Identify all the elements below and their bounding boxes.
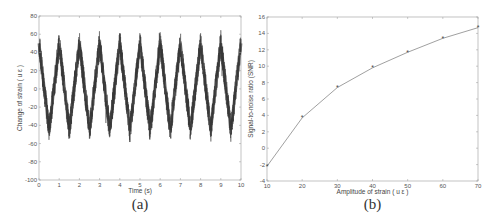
data-point-marker: * <box>477 24 480 31</box>
y-tick-label: 60 <box>30 31 37 37</box>
x-tick-label: 10 <box>238 182 245 188</box>
data-point-marker: * <box>301 114 304 121</box>
x-axis-label: Amplitude of strain ( u ε ) <box>337 188 409 196</box>
y-tick-label: -60 <box>28 141 37 147</box>
x-tick-label: 9 <box>219 182 223 188</box>
x-axis-label: Time (s) <box>128 187 152 195</box>
x-tick-label: 7 <box>179 182 183 188</box>
data-point-marker: * <box>266 163 269 170</box>
y-axis-label: Change of strain ( u ε ) <box>16 65 24 131</box>
y-tick-label: -80 <box>28 159 37 165</box>
y-tick-label: 20 <box>30 68 37 74</box>
x-tick-label: 0 <box>37 182 41 188</box>
figure-canvas: 012345678910-100-80-60-40-20020406080Tim… <box>0 0 499 222</box>
data-point-marker: * <box>441 35 444 42</box>
data-point-marker: * <box>406 49 409 56</box>
x-tick-label: 2 <box>78 182 82 188</box>
y-tick-label: 10 <box>258 63 265 69</box>
y-tick-label: 16 <box>258 14 265 20</box>
y-tick-label: -100 <box>25 177 38 183</box>
x-tick-label: 8 <box>199 182 203 188</box>
x-tick-label: 20 <box>299 183 306 189</box>
y-tick-label: 0 <box>262 145 266 151</box>
x-tick-label: 70 <box>475 183 482 189</box>
caption-a: (a) <box>132 196 149 213</box>
y-tick-label: 12 <box>258 47 265 53</box>
y-tick-label: -4 <box>260 178 266 184</box>
x-tick-label: 60 <box>439 183 446 189</box>
chart-b: 10203040506070-4-20246810121416*******Am… <box>247 14 482 213</box>
x-tick-label: 4 <box>118 182 122 188</box>
y-tick-label: -20 <box>28 104 37 110</box>
x-tick-label: 6 <box>159 182 163 188</box>
y-tick-label: 6 <box>262 96 266 102</box>
y-tick-label: 8 <box>262 80 266 86</box>
y-tick-label: -40 <box>28 122 37 128</box>
y-tick-label: 4 <box>262 112 266 118</box>
chart-a: 012345678910-100-80-60-40-20020406080Tim… <box>16 13 245 213</box>
y-tick-label: 14 <box>258 30 265 36</box>
caption-b: (b) <box>364 196 382 213</box>
data-point-marker: * <box>371 64 374 71</box>
y-axis-label: Signal-to-noise ratio (SNR) <box>247 60 255 138</box>
y-tick-label: 2 <box>262 129 266 135</box>
plot-area-b <box>267 17 478 181</box>
y-tick-label: 0 <box>34 86 38 92</box>
y-tick-label: 80 <box>30 13 37 19</box>
x-tick-label: 3 <box>98 182 102 188</box>
data-point-marker: * <box>336 84 339 91</box>
x-tick-label: 1 <box>58 182 62 188</box>
y-tick-label: 40 <box>30 49 37 55</box>
